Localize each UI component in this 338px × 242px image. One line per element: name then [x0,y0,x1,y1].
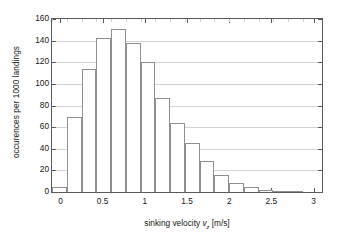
histogram-bar [185,143,200,192]
y-axis-tick-label: 60 [9,122,49,131]
x-axis-tick-label: 1 [125,196,165,206]
x-axis-minor-tick-top [67,19,68,22]
x-axis-minor-tick-top [288,19,289,22]
x-axis-minor-tick-top [170,19,171,22]
y-axis-tick-right [318,127,322,128]
x-axis-minor-tick-top [52,19,53,22]
x-axis-tick-label: 2.5 [251,196,291,206]
y-axis-tick-label: 0 [9,187,49,196]
y-axis-tick [52,149,56,150]
x-axis-minor-tick-top [126,19,127,22]
y-axis-tick-label: 140 [9,36,49,45]
x-axis-tick-label: 2 [209,196,249,206]
y-axis-tick-label: 120 [9,57,49,66]
y-axis-tick [52,41,56,42]
y-axis-tick [52,170,56,171]
y-axis-tick-label: 100 [9,79,49,88]
x-axis-tick-top [314,19,315,23]
histogram-bar [126,43,141,192]
histogram-bar [244,187,259,192]
gridline-y [52,41,322,42]
histogram-bar [111,29,126,192]
x-axis-tick-top [60,19,61,23]
histogram-bar [96,38,111,192]
x-axis-minor-tick-top [141,19,142,22]
x-axis-tick-label: 0.5 [83,196,123,206]
histogram-bar [200,161,215,192]
plot-area [51,18,323,193]
histogram-figure: occurences per 1000 landings sinking vel… [0,0,338,242]
y-axis-tick-label: 20 [9,165,49,174]
y-axis-tick-label: 80 [9,101,49,110]
histogram-bar [229,183,244,192]
y-axis-tick [52,127,56,128]
x-axis-minor-tick-top [200,19,201,22]
y-axis-tick-right [318,62,322,63]
histogram-bar [82,69,97,192]
histogram-bar [273,191,288,192]
x-axis-tick-label: 3 [294,196,334,206]
x-axis-minor-tick-top [185,19,186,22]
y-axis-tick-right [318,19,322,20]
y-axis-tick-label: 40 [9,144,49,153]
x-axis-minor-tick-top [82,19,83,22]
gridline-y [52,62,322,63]
histogram-bar [52,187,67,192]
x-axis-title-prefix: sinking velocity [144,218,202,228]
x-axis-minor-tick-top [244,19,245,22]
histogram-bar [288,191,303,192]
y-axis-tick [52,106,56,107]
histogram-bar [214,175,229,192]
y-axis-tick-right [318,170,322,171]
y-axis-tick [52,192,56,193]
x-axis-minor-tick-top [229,19,230,22]
y-axis-tick-right [318,149,322,150]
y-axis-tick-right [318,192,322,193]
y-axis-tick [52,84,56,85]
y-axis-tick [52,62,56,63]
y-axis-tick-right [318,106,322,107]
x-axis-minor-tick-top [96,19,97,22]
histogram-bar [259,190,274,192]
x-axis-tick-top [187,19,188,23]
x-axis-tick-label: 0 [40,196,80,206]
x-axis-tick-label: 1.5 [167,196,207,206]
x-axis-tick-top [145,19,146,23]
x-axis-tick-top [271,19,272,23]
x-axis-minor-tick-top [259,19,260,22]
x-axis-minor-tick-top [303,19,304,22]
x-axis-minor-tick-top [155,19,156,22]
x-axis-tick-top [103,19,104,23]
y-axis-tick-right [318,41,322,42]
x-axis-title: sinking velocity vz [m/s] [51,217,323,233]
histogram-bar [67,117,82,192]
x-axis-minor-tick-top [111,19,112,22]
x-axis-tick [314,188,315,192]
histogram-bar [141,62,156,192]
plot-inner [52,19,322,192]
x-axis-minor-tick-top [273,19,274,22]
x-axis-minor-tick-top [214,19,215,22]
y-axis-tick-label: 160 [9,14,49,23]
histogram-bar [155,98,170,192]
x-axis-title-units: [m/s] [209,218,229,228]
y-axis-tick-right [318,84,322,85]
histogram-bar [170,123,185,192]
